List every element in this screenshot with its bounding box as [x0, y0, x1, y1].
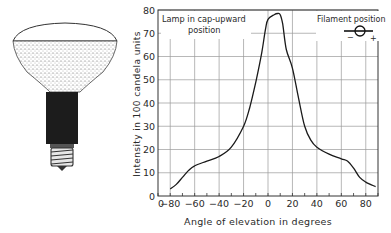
- annotation-filament-position: Filament position − +: [316, 11, 388, 43]
- reflector-lamp-illustration: [0, 0, 130, 233]
- x-tick-label: 0: [265, 198, 271, 209]
- y-tick-label: 10: [143, 167, 155, 178]
- x-tick-label: 80: [360, 198, 372, 209]
- x-tick-label: −80: [160, 198, 180, 209]
- y-tick-label: 20: [143, 144, 155, 155]
- annotation-left-line2: position: [188, 25, 220, 35]
- x-tick-label: 20: [286, 198, 298, 209]
- x-tick-label: −40: [209, 198, 229, 209]
- x-tick-label: −20: [234, 198, 254, 209]
- x-tick-label: 40: [311, 198, 323, 209]
- lamp-icon: [0, 0, 130, 233]
- y-tick-label: 80: [143, 5, 155, 16]
- annotation-right: Filament position: [317, 15, 386, 24]
- x-tick-label: −60: [185, 198, 205, 209]
- y-tick-label: 30: [143, 121, 155, 132]
- x-axis-label: Angle of elevation in degrees: [184, 216, 332, 227]
- x-tick-label: 60: [335, 198, 347, 209]
- y-tick-label: 0: [149, 191, 155, 202]
- y-tick-label: 70: [143, 28, 155, 39]
- filament-plus: +: [370, 34, 377, 43]
- annotation-left-line1: Lamp in cap-upward: [162, 14, 246, 24]
- y-tick-label: 40: [143, 98, 155, 109]
- intensity-chart: 010203040506070800−80−60−40−20020406080 …: [128, 0, 391, 233]
- filament-minus: −: [347, 33, 354, 42]
- y-tick-label: 60: [143, 51, 155, 62]
- y-tick-label: 50: [143, 74, 155, 85]
- y-axis-label: Intensity in 100 candela units: [132, 31, 142, 177]
- annotation-lamp-position: Lamp in cap-upward position: [161, 11, 251, 39]
